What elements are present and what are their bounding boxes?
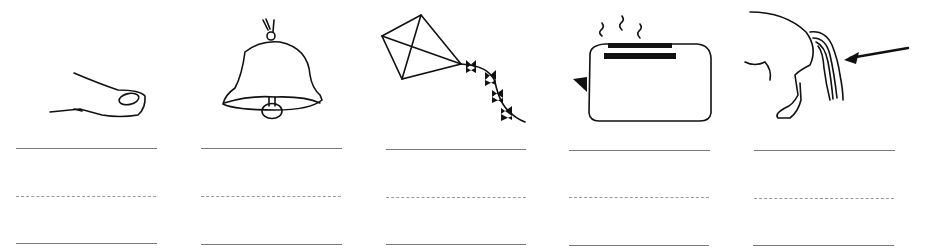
item-2-top-line[interactable]: [201, 148, 342, 149]
item-5-top-line[interactable]: [754, 150, 895, 151]
item-5-middle-line[interactable]: [754, 198, 894, 199]
item-1-bottom-line[interactable]: [16, 243, 157, 244]
item-5-bottom-line[interactable]: [753, 245, 894, 246]
toaster-icon: [565, 0, 735, 135]
item-3-bottom-line[interactable]: [386, 244, 526, 245]
item-3-middle-line[interactable]: [386, 197, 526, 198]
kite-icon: [375, 0, 545, 135]
item-1-middle-line[interactable]: [16, 196, 156, 197]
item-3-top-line[interactable]: [386, 149, 526, 150]
horse-tail-icon: [740, 0, 925, 135]
item-2-picture: bell: [200, 0, 370, 135]
item-4-top-line[interactable]: [569, 150, 710, 151]
item-5-picture: tail: [740, 0, 910, 135]
bell-icon: [200, 0, 370, 135]
item-3-picture: kite: [375, 0, 545, 135]
item-2-middle-line[interactable]: [201, 196, 341, 197]
item-4-middle-line[interactable]: [569, 197, 709, 198]
item-1-picture: thumb: [20, 0, 190, 135]
item-2-bottom-line[interactable]: [201, 244, 342, 245]
item-4-bottom-line[interactable]: [569, 245, 709, 246]
item-1-top-line[interactable]: [16, 148, 157, 149]
thumb-icon: [20, 0, 190, 135]
item-4-picture: toaster: [565, 0, 735, 135]
